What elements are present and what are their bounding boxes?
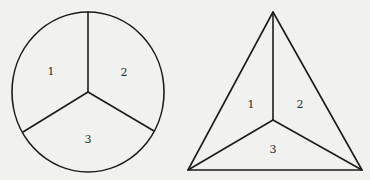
triangle-region-label-1: 1 [248,98,255,111]
circle-spoke-right [88,92,154,131]
triangle-region-label-2: 2 [297,98,304,111]
circle-region-label-3: 3 [85,133,92,146]
circle-region-label-2: 2 [121,66,128,79]
circle-spoke-left [23,92,88,132]
diagram-svg: 1 2 3 1 2 3 [0,0,370,180]
circle-region-label-1: 1 [48,65,55,78]
circle-diagram: 1 2 3 [12,12,164,172]
triangle-region-label-3: 3 [270,143,277,156]
diagram-canvas: 1 2 3 1 2 3 [0,0,370,180]
triangle-diagram: 1 2 3 [188,12,362,170]
